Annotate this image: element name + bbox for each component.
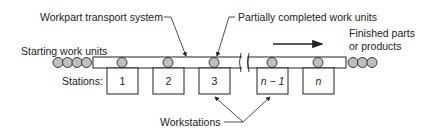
starting-unit-icon xyxy=(63,58,73,68)
finished-parts-label-line1: Finished parts xyxy=(349,27,415,39)
starting-units xyxy=(53,58,92,68)
work-unit-icon xyxy=(267,58,277,68)
station-label: 1 xyxy=(120,75,126,87)
flow-line-diagram: Workpart transport system Partially comp… xyxy=(0,0,436,135)
station-label: n xyxy=(316,75,322,87)
station-1: 1 xyxy=(107,68,138,94)
station-2: 2 xyxy=(153,68,184,94)
station-label: n − 1 xyxy=(261,75,285,87)
station-3: 3 xyxy=(199,68,230,94)
partial-units-label: Partially completed work units xyxy=(238,11,377,23)
stations-label: Stations: xyxy=(62,75,103,87)
conveyor-right-segment xyxy=(248,57,346,68)
finished-unit-icon xyxy=(348,58,358,68)
starting-unit-icon xyxy=(82,58,92,68)
station-n: n xyxy=(303,68,334,94)
work-unit-icon xyxy=(117,58,127,68)
station-label: 3 xyxy=(212,75,218,87)
partial-units-leader xyxy=(217,17,235,56)
starting-units-label: Starting work units xyxy=(21,45,107,57)
starting-unit-icon xyxy=(53,58,63,68)
finished-units xyxy=(348,58,377,68)
starting-unit-icon xyxy=(72,58,82,68)
transport-system-label: Workpart transport system xyxy=(40,11,163,23)
work-unit-icon xyxy=(163,58,173,68)
finished-unit-icon xyxy=(358,58,368,68)
finished-parts-label-line2: or products xyxy=(349,40,402,52)
work-unit-icon xyxy=(209,58,219,68)
work-unit-icon xyxy=(313,58,323,68)
finished-unit-icon xyxy=(367,58,377,68)
workstations-leader xyxy=(215,97,270,122)
station-label: 2 xyxy=(166,75,172,87)
transport-system-leader xyxy=(164,17,186,56)
station-n-minus-1: n − 1 xyxy=(257,68,288,94)
workstations-label: Workstations xyxy=(160,116,221,128)
